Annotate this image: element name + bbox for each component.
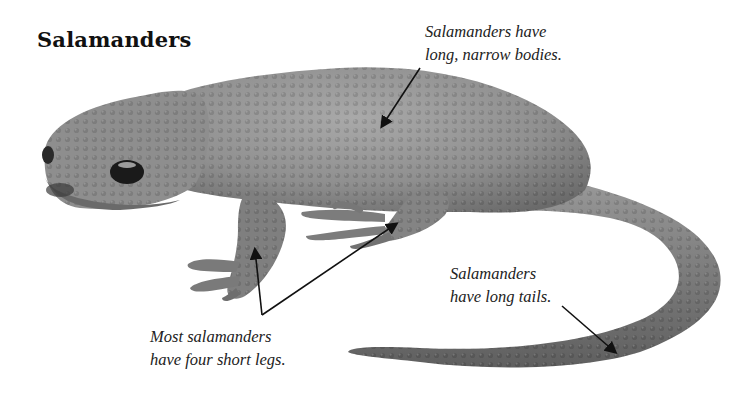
- caption-tail-line-1: Salamanders: [450, 262, 551, 285]
- page-title: Salamanders: [37, 27, 192, 52]
- nostril: [42, 146, 54, 164]
- caption-body: Salamanders have long, narrow bodies.: [425, 20, 562, 66]
- caption-legs-line-2: have four short legs.: [150, 348, 286, 371]
- caption-tail: Salamanders have long tails.: [450, 262, 551, 308]
- caption-body-line-2: long, narrow bodies.: [425, 43, 562, 66]
- caption-tail-line-2: have long tails.: [450, 285, 551, 308]
- caption-legs-line-1: Most salamanders: [150, 325, 286, 348]
- caption-legs: Most salamanders have four short legs.: [150, 325, 286, 371]
- document-page: Salamanders Salamanders have long, narro…: [0, 0, 756, 397]
- salamander-front-leg: [188, 190, 286, 301]
- salamander-illustration: [0, 0, 756, 397]
- salamander-body: [160, 67, 591, 212]
- caption-body-line-1: Salamanders have: [425, 20, 562, 43]
- salamander-head: [42, 91, 209, 210]
